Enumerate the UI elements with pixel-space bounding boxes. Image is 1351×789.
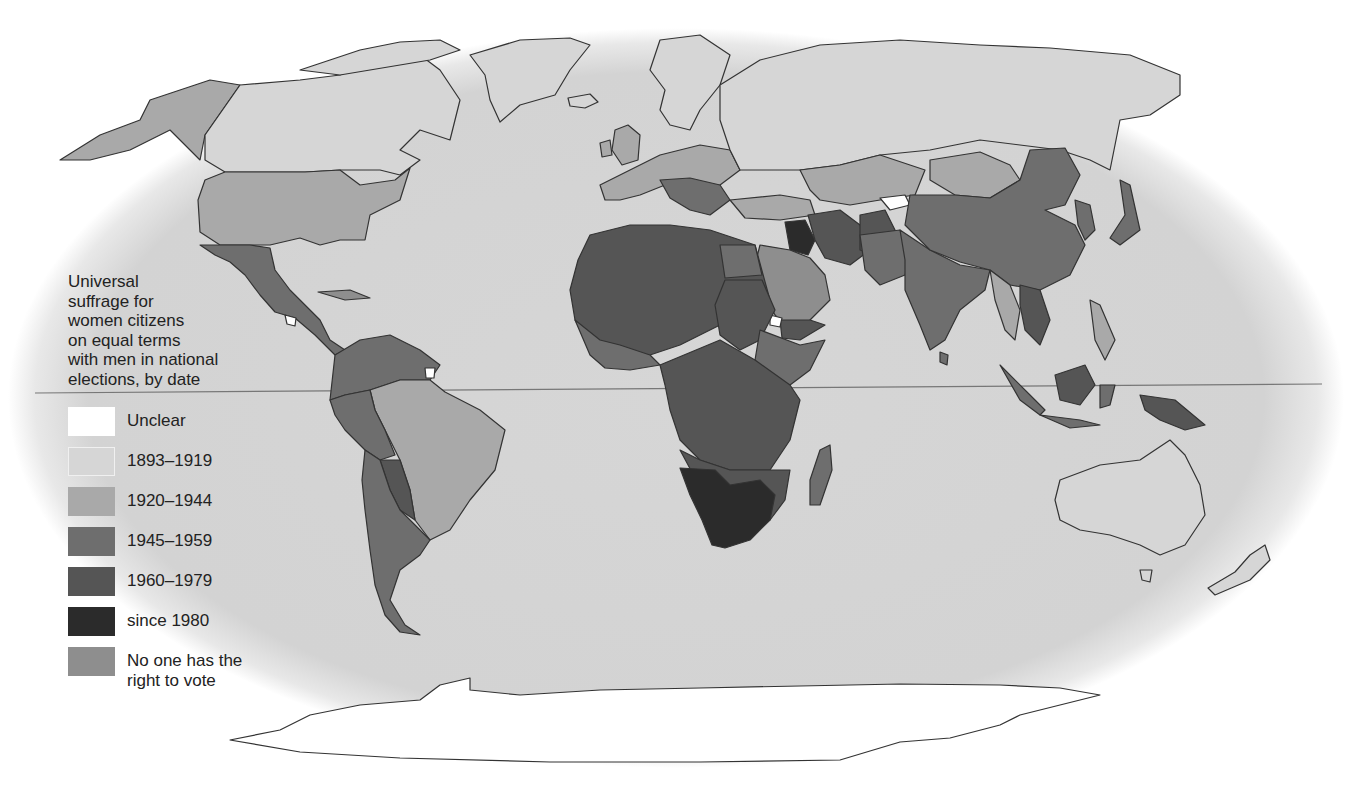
legend-label-line: right to vote — [127, 671, 242, 691]
legend-swatch — [68, 407, 115, 436]
legend-swatch — [68, 487, 115, 516]
legend-label: since 1980 — [127, 607, 209, 631]
legend-title-line: with men in national — [68, 350, 308, 370]
legend-title: Universal suffrage for women citizens on… — [68, 272, 308, 389]
region-tasmania — [1140, 570, 1152, 582]
region-egypt — [720, 245, 762, 278]
legend-item-1920-1944: 1920–1944 — [68, 487, 308, 516]
legend-label: 1920–1944 — [127, 487, 212, 511]
legend-item-1945-1959: 1945–1959 — [68, 527, 308, 556]
legend-item-1960-1979: 1960–1979 — [68, 567, 308, 596]
legend-title-line: suffrage for — [68, 292, 308, 312]
legend-label: 1960–1979 — [127, 567, 212, 591]
region-french-guiana-unclear — [425, 368, 435, 378]
legend-label: Unclear — [127, 407, 186, 431]
legend-swatch — [68, 567, 115, 596]
legend-swatch — [68, 447, 115, 476]
legend-label-line: No one has the — [127, 651, 242, 671]
legend-label: No one has the right to vote — [127, 647, 242, 691]
region-sri-lanka — [940, 352, 948, 365]
legend-title-line: elections, by date — [68, 370, 308, 390]
legend-swatch — [68, 527, 115, 556]
legend-title-line: women citizens — [68, 311, 308, 331]
legend-item-since-1980: since 1980 — [68, 607, 308, 636]
legend-item-no-vote: No one has the right to vote — [68, 647, 308, 691]
legend-title-line: on equal terms — [68, 331, 308, 351]
legend: Universal suffrage for women citizens on… — [68, 272, 308, 702]
legend-item-unclear: Unclear — [68, 407, 308, 436]
legend-title-line: Universal — [68, 272, 308, 292]
legend-swatch — [68, 647, 115, 676]
legend-swatch — [68, 607, 115, 636]
legend-label: 1945–1959 — [127, 527, 212, 551]
legend-item-1893-1919: 1893–1919 — [68, 447, 308, 476]
legend-label: 1893–1919 — [127, 447, 212, 471]
region-ireland — [600, 140, 612, 157]
